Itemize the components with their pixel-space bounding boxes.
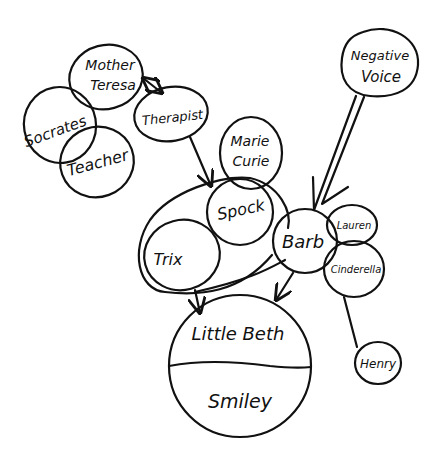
mother-teresa-label-2: Teresa — [90, 77, 136, 93]
spock-label: Spock — [215, 195, 267, 224]
negative-voice-label-2: Voice — [361, 68, 401, 86]
edge-negative-voice-barb — [313, 96, 364, 210]
cinderella-label: Cinderella — [331, 264, 382, 275]
edge-group-barb — [195, 260, 285, 292]
negative-voice-label-1: Negative — [351, 48, 409, 63]
little-beth-circle — [169, 295, 311, 437]
node-little-beth-smiley: Little Beth Smiley — [169, 295, 311, 437]
barb-label: Barb — [282, 231, 324, 252]
teacher-label: Teacher — [65, 145, 132, 180]
mother-teresa-label-1: Mother — [85, 57, 136, 73]
node-spock: Spock — [207, 179, 273, 245]
node-lauren: Lauren — [327, 205, 377, 245]
node-therapist: Therapist — [130, 81, 212, 147]
henry-label: Henry — [360, 357, 397, 371]
lauren-label: Lauren — [337, 220, 372, 231]
node-negative-voice: Negative Voice — [341, 29, 418, 96]
smiley-label: Smiley — [208, 390, 273, 412]
edge-therapist-spock — [190, 137, 211, 186]
node-cinderella: Cinderella — [324, 241, 384, 297]
little-beth-label: Little Beth — [192, 323, 285, 344]
edge-barb-little-beth — [276, 273, 293, 300]
marie-curie-label-1: Marie — [231, 133, 270, 149]
node-henry: Henry — [355, 342, 401, 384]
therapist-label: Therapist — [141, 107, 204, 128]
edge-cinderella-henry — [344, 297, 357, 347]
trix-label: Trix — [153, 250, 183, 269]
marie-curie-label-2: Curie — [233, 153, 270, 169]
divider-line — [169, 362, 311, 367]
diagram-canvas: Mother Teresa Socrates Teacher Therapist… — [0, 0, 441, 469]
